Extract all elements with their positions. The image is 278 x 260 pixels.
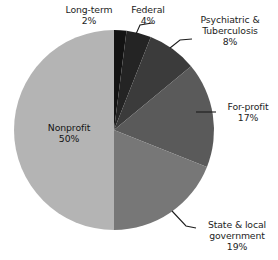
pie-label-for-profit-name: For-profit xyxy=(218,101,278,112)
pie-label-long-term-value: 2% xyxy=(58,15,120,26)
pie-label-state-local-value: 19% xyxy=(196,241,278,252)
pie-label-nonprofit-name: Nonprofit xyxy=(36,122,102,133)
pie-label-nonprofit-value: 50% xyxy=(36,133,102,144)
pie-label-long-term-name: Long-term xyxy=(58,4,120,15)
pie-label-psychiatric-name-line2: Tuberculosis xyxy=(182,25,278,36)
pie-label-state-local-name-line1: State & local xyxy=(196,219,278,230)
pie-label-for-profit-value: 17% xyxy=(218,112,278,123)
pie-label-federal: Federal 4% xyxy=(124,4,172,26)
pie-label-state-local-government: State & local government 19% xyxy=(196,219,278,253)
pie-label-psychiatric-tuberculosis: Psychiatric & Tuberculosis 8% xyxy=(182,14,278,48)
pie-label-for-profit: For-profit 17% xyxy=(218,101,278,123)
pie-label-state-local-name-line2: government xyxy=(196,230,278,241)
pie-chart-figure: Long-term 2% Federal 4% Psychiatric & Tu… xyxy=(0,0,278,260)
pie-label-federal-name: Federal xyxy=(124,4,172,15)
pie-label-long-term: Long-term 2% xyxy=(58,4,120,26)
pie-label-psychiatric-value: 8% xyxy=(182,36,278,47)
pie-label-federal-value: 4% xyxy=(124,15,172,26)
leader-line-state-local xyxy=(172,211,196,228)
pie-label-psychiatric-name-line1: Psychiatric & xyxy=(182,14,278,25)
pie-label-nonprofit: Nonprofit 50% xyxy=(36,122,102,144)
